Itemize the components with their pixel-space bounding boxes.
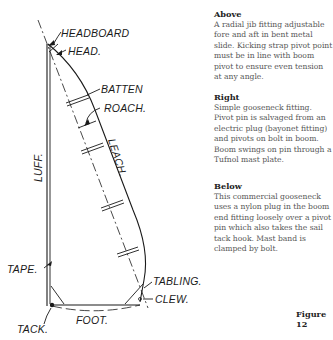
caption-text: This commercial gooseneck uses a nylon p…	[214, 192, 333, 254]
foot-curve	[52, 305, 140, 311]
label-batten: BATTEN	[101, 83, 143, 95]
label-tabling: TABLING.	[153, 275, 202, 287]
caption-text: A radial jib fitting adjustable fore and…	[214, 20, 333, 82]
label-tape: TAPE.	[7, 263, 38, 275]
label-clew: CLEW.	[155, 293, 189, 305]
sail-diagram: HEADBOARD HEAD. BATTEN ROACH. LEACH. LUF…	[0, 0, 210, 340]
label-headboard: HEADBOARD	[61, 27, 130, 39]
caption-heading: Below	[214, 181, 333, 192]
caption-above: Above A radial jib fitting adjustable fo…	[214, 9, 333, 82]
reference-line	[38, 20, 148, 308]
figure-title: Figure 12	[296, 309, 333, 329]
label-leach: LEACH.	[106, 137, 130, 178]
caption-right: Right Simple gooseneck fitting. Pivot pi…	[214, 92, 333, 165]
caption-text: Simple gooseneck fitting. Pivot pin is s…	[214, 103, 333, 165]
label-luff: LUFF.	[32, 153, 44, 182]
batten-pockets	[66, 95, 139, 257]
caption-heading: Above	[214, 9, 333, 20]
caption-heading: Right	[214, 92, 333, 103]
label-head: HEAD.	[68, 45, 101, 57]
label-roach: ROACH.	[104, 102, 146, 114]
caption-below: Below This commercial gooseneck uses a n…	[214, 181, 333, 254]
label-foot: FOOT.	[76, 314, 108, 326]
label-tack: TACK.	[17, 323, 48, 335]
